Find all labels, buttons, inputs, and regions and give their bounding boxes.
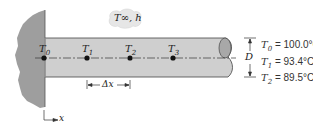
node-label-1: T1 <box>82 43 93 57</box>
node-label-3: T3 <box>168 43 179 57</box>
node-label-2: T2 <box>125 43 136 57</box>
given-value-0: T0 = 100.0°C <box>261 39 313 56</box>
given-value-2: T2 = 89.5°C <box>261 72 313 89</box>
given-values: T0 = 100.0°C T1 = 93.4°C T2 = 89.5°C <box>261 39 313 89</box>
wall <box>15 10 45 108</box>
rod-end <box>219 38 231 58</box>
diameter-label: D <box>245 51 253 62</box>
ambient-label: T∞, h <box>114 12 142 23</box>
spacing-label: Δx <box>102 79 114 89</box>
axis-label: x <box>59 113 64 123</box>
rod <box>45 38 233 77</box>
x-axis <box>44 110 58 122</box>
node-label-0: T0 <box>39 43 50 57</box>
given-value-1: T1 = 93.4°C <box>261 56 313 73</box>
